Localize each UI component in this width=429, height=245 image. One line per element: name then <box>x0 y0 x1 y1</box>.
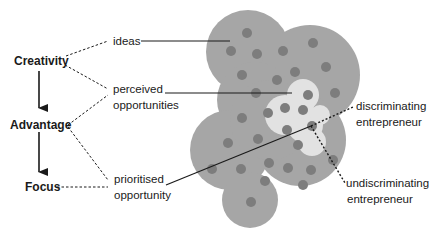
undiscriminating-entrepreneur-line1: undiscriminating <box>346 177 429 189</box>
stage-label-focus: Focus <box>25 180 61 194</box>
concept-label-perceived-line1: perceived <box>113 83 163 95</box>
undiscriminating-entrepreneur-line2: entrepreneur <box>347 193 413 205</box>
creativity-focus-diagram: Creativity Advantage Focus ideas perceiv… <box>0 0 429 245</box>
discriminating-entrepreneur-line1: discriminating <box>356 100 426 112</box>
stage-label-advantage: Advantage <box>10 118 72 132</box>
concept-label-ideas: ideas <box>113 35 141 47</box>
concept-label-prioritised-line2: opportunity <box>114 189 171 201</box>
concept-label-perceived-line2: opportunities <box>113 99 179 111</box>
stage-label-creativity: Creativity <box>14 54 69 68</box>
discriminating-entrepreneur-line2: entrepreneur <box>356 116 422 128</box>
concept-label-prioritised-line1: prioritised <box>114 173 164 185</box>
